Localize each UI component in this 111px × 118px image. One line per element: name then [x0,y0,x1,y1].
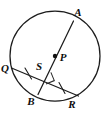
geometry-canvas: A P Q S B R [0,0,111,118]
point-label-p: P [60,51,67,63]
center-point-dot [53,54,57,58]
geometry-figure: A P Q S B R [0,0,111,118]
segment-qr [12,68,79,96]
point-label-b: B [26,95,34,107]
point-label-s: S [36,60,42,72]
point-label-q: Q [1,62,9,74]
point-label-a: A [73,6,81,18]
point-label-r: R [67,98,75,110]
